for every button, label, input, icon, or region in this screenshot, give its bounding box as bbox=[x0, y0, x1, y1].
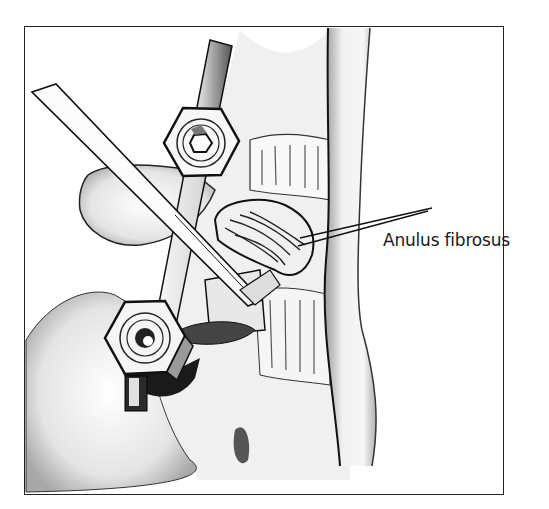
anulus-fibrosus-label: Anulus fibrosus bbox=[383, 230, 510, 250]
vertebral-column bbox=[325, 28, 376, 466]
surgical-illustration bbox=[0, 0, 549, 509]
